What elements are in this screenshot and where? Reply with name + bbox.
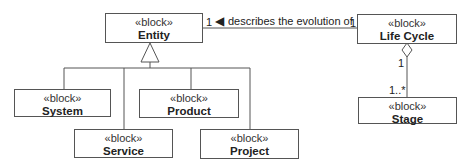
block-stereotype: «block» xyxy=(358,17,456,29)
block-entity[interactable]: «block» Entity xyxy=(105,13,203,43)
block-product[interactable]: «block» Product xyxy=(139,89,239,118)
block-stereotype: «block» xyxy=(201,132,298,144)
block-name: System xyxy=(15,105,110,117)
association-label: describes the evolution of xyxy=(228,15,353,27)
generalization-triangle-icon xyxy=(141,43,159,62)
direction-arrow-icon: ◀ xyxy=(215,15,224,27)
multiplicity-part: 1..* xyxy=(389,84,406,96)
block-life-cycle[interactable]: «block» Life Cycle xyxy=(357,14,457,44)
block-project[interactable]: «block» Project xyxy=(200,129,299,159)
block-name: Entity xyxy=(106,29,202,41)
block-system[interactable]: «block» System xyxy=(14,89,111,117)
block-name: Stage xyxy=(359,113,456,125)
block-service[interactable]: «block» Service xyxy=(74,129,173,158)
block-name: Project xyxy=(201,145,298,157)
multiplicity-life-cycle-end: 1 xyxy=(350,17,356,29)
block-stereotype: «block» xyxy=(15,92,110,104)
block-stereotype: «block» xyxy=(106,16,202,28)
block-name: Product xyxy=(140,105,238,117)
block-stage[interactable]: «block» Stage xyxy=(358,97,457,124)
block-stereotype: «block» xyxy=(140,92,238,104)
aggregation-diamond-icon xyxy=(402,43,412,57)
block-name: Life Cycle xyxy=(358,30,456,42)
block-name: Service xyxy=(75,145,172,157)
block-stereotype: «block» xyxy=(75,132,172,144)
block-stereotype: «block» xyxy=(359,100,456,112)
multiplicity-entity-end: 1 xyxy=(206,16,212,28)
multiplicity-whole: 1 xyxy=(398,57,404,69)
